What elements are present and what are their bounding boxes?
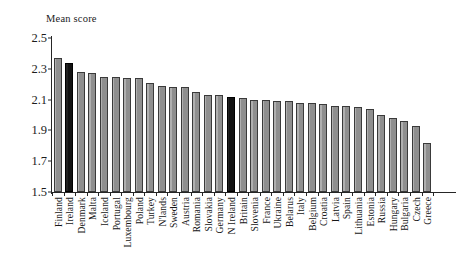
x-tick-slot bbox=[121, 192, 133, 196]
x-tick-label: Belarus bbox=[283, 197, 294, 227]
x-tick-mark bbox=[410, 192, 411, 196]
bar-slot bbox=[271, 38, 283, 192]
x-label-slot: Romania bbox=[191, 197, 203, 275]
bar-slot bbox=[341, 38, 353, 192]
x-label-slot: Belarus bbox=[283, 197, 295, 275]
x-label-slot: Portugal bbox=[110, 197, 122, 275]
x-tick-slot bbox=[329, 192, 341, 196]
x-label-slot: France bbox=[260, 197, 272, 275]
x-tick-slot bbox=[191, 192, 203, 196]
bar bbox=[192, 92, 200, 192]
x-tick-label: Finland bbox=[52, 197, 63, 227]
bar bbox=[331, 106, 339, 192]
x-tick-label: Iceland bbox=[98, 197, 109, 226]
bar bbox=[146, 83, 154, 192]
x-tick-label: Austria bbox=[179, 197, 190, 226]
x-tick-label: Germany bbox=[214, 197, 225, 233]
y-tick-label: 2.3 bbox=[31, 61, 47, 76]
x-tick-mark bbox=[318, 192, 319, 196]
bar-slot bbox=[225, 38, 237, 192]
x-tick-mark bbox=[202, 192, 203, 196]
x-tick-label: Italy bbox=[295, 197, 306, 215]
bar bbox=[354, 107, 362, 192]
bar bbox=[308, 103, 316, 192]
y-tick-label: 1.9 bbox=[31, 123, 47, 138]
x-label-slot: Czech bbox=[410, 197, 422, 275]
x-label-slot: Sweden bbox=[167, 197, 179, 275]
x-tick-label: Ireland bbox=[64, 197, 75, 225]
x-tick-mark bbox=[341, 192, 342, 196]
bar-slot bbox=[422, 38, 434, 192]
x-label-slot: N Ireland bbox=[225, 197, 237, 275]
x-tick-slot bbox=[341, 192, 353, 196]
x-tick-slot bbox=[75, 192, 87, 196]
x-tick-slot bbox=[283, 192, 295, 196]
x-label-slot: Turkey bbox=[144, 197, 156, 275]
bar bbox=[135, 78, 143, 192]
bar-slot bbox=[410, 38, 422, 192]
x-tick-mark bbox=[156, 192, 157, 196]
bar-slot bbox=[110, 38, 122, 192]
x-tick-slot bbox=[294, 192, 306, 196]
bar-slot bbox=[398, 38, 410, 192]
x-tick-mark bbox=[433, 192, 434, 196]
x-tick-slot bbox=[410, 192, 422, 196]
x-label-slot: Bulgaria bbox=[398, 197, 410, 275]
x-tick-label: France bbox=[260, 197, 271, 224]
x-tick-label: Spain bbox=[341, 197, 352, 219]
bar-slot bbox=[98, 38, 110, 192]
x-tick-mark bbox=[283, 192, 284, 196]
bar bbox=[204, 95, 212, 192]
x-tick-label: Ukraine bbox=[272, 197, 283, 229]
x-tick-label: Hungary bbox=[387, 197, 398, 231]
bar-slot bbox=[52, 38, 64, 192]
bar-slot bbox=[87, 38, 99, 192]
x-tick-slot bbox=[248, 192, 260, 196]
x-label-slot: Germany bbox=[214, 197, 226, 275]
x-label-slot: Denmark bbox=[75, 197, 87, 275]
bar-slot bbox=[167, 38, 179, 192]
x-tick-mark bbox=[179, 192, 180, 196]
x-tick-label: Romania bbox=[191, 197, 202, 232]
x-label-slot: Britain bbox=[237, 197, 249, 275]
x-tick-label: Lithuania bbox=[352, 197, 363, 235]
x-tick-slot bbox=[214, 192, 226, 196]
bar-slot bbox=[387, 38, 399, 192]
bar-series bbox=[52, 38, 456, 192]
x-tick-label: Latvia bbox=[329, 197, 340, 222]
x-label-slot: Lithuania bbox=[352, 197, 364, 275]
x-tick-label: Slovakia bbox=[202, 197, 213, 231]
x-tick-mark bbox=[87, 192, 88, 196]
x-label-slot: Latvia bbox=[329, 197, 341, 275]
y-tick-label: 1.5 bbox=[31, 185, 47, 200]
x-tick-slot bbox=[422, 192, 434, 196]
x-label-slot: Poland bbox=[133, 197, 145, 275]
bar bbox=[169, 87, 177, 192]
x-tick-mark bbox=[306, 192, 307, 196]
x-tick-label: Britain bbox=[237, 197, 248, 224]
bar bbox=[181, 87, 189, 192]
y-tick-label: 1.7 bbox=[31, 154, 47, 169]
x-tick-slot bbox=[64, 192, 76, 196]
x-tick-mark bbox=[191, 192, 192, 196]
x-label-slot: Belgium bbox=[306, 197, 318, 275]
x-tick-label: Slovenia bbox=[249, 197, 260, 231]
bar bbox=[342, 106, 350, 192]
bar bbox=[400, 121, 408, 192]
plot-area: 2.52.32.11.91.71.5 bbox=[52, 38, 456, 192]
x-tick-slot bbox=[110, 192, 122, 196]
x-tick-mark bbox=[214, 192, 215, 196]
x-tick-label: Sweden bbox=[168, 197, 179, 228]
x-tick-slot bbox=[375, 192, 387, 196]
bar bbox=[100, 77, 108, 193]
x-tick-label: Denmark bbox=[75, 197, 86, 233]
bar-slot bbox=[294, 38, 306, 192]
x-label-slot: Italy bbox=[294, 197, 306, 275]
x-tick-slot bbox=[352, 192, 364, 196]
bar-slot bbox=[318, 38, 330, 192]
bar-slot bbox=[64, 38, 76, 192]
x-tick-slot bbox=[364, 192, 376, 196]
bar bbox=[389, 118, 397, 192]
bar bbox=[366, 109, 374, 192]
x-label-slot: Ireland bbox=[64, 197, 76, 275]
